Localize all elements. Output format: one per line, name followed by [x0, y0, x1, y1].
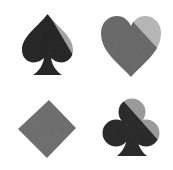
diamond-icon: [16, 97, 78, 160]
club-icon: [101, 96, 161, 160]
spade-icon: [20, 12, 75, 80]
heart-icon: [99, 13, 163, 79]
